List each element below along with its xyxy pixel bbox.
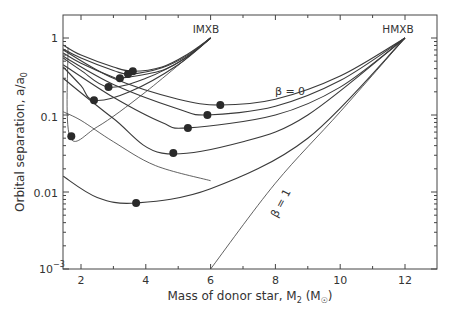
y-tick-1e-3: 10 <box>39 263 53 276</box>
y-tick-0.01: 0.01 <box>34 187 59 200</box>
curves <box>63 38 405 269</box>
x-tick-2: 2 <box>78 274 85 287</box>
curve-hmxb-0-2 <box>63 38 405 115</box>
y-tick-0.1: 0.1 <box>41 111 59 124</box>
minimum-dot <box>216 101 224 109</box>
x-tick-4: 4 <box>142 274 149 287</box>
hmxb-label: HMXB <box>382 23 413 35</box>
x-tick-10: 10 <box>333 274 347 287</box>
curve-hmxb-0-4 <box>63 38 405 128</box>
x-axis-label: Mass of donor star, M2 (M☉) <box>167 289 332 305</box>
minimum-dot <box>124 70 132 78</box>
curve-hmxb-0 <box>63 38 405 105</box>
minimum-dot <box>90 96 98 104</box>
minimum-dots <box>67 67 224 207</box>
beta1-label: β = 1 <box>268 187 294 220</box>
minimum-dot <box>169 149 177 157</box>
y-tick-1e-3-base: 10 <box>39 263 53 276</box>
y-axis-label: Orbital separation, a/a0 <box>13 72 29 212</box>
curve-hmxb-0-8 <box>63 38 405 203</box>
minimum-dot <box>116 74 124 82</box>
x-tick-labels: 24681012 <box>78 274 413 287</box>
x-tick-12: 12 <box>398 274 412 287</box>
minimum-dot <box>184 124 192 132</box>
beta0-label: β = 0 <box>275 85 305 98</box>
curve-imxb-1-lower- <box>63 112 210 181</box>
minimum-dot <box>203 111 211 119</box>
y-tick-1e-3-exp: −3 <box>53 260 65 269</box>
minimum-dot <box>132 199 140 207</box>
minimum-dot <box>67 132 75 140</box>
x-tick-6: 6 <box>207 274 214 287</box>
imxb-label: IMXB <box>193 23 220 35</box>
curve-hmxb-1 <box>211 38 405 269</box>
y-tick-1: 1 <box>51 32 58 45</box>
orbital-separation-chart: 24681012 1 0.1 0.01 10 −3 Mass of donor … <box>0 0 454 315</box>
minimum-dot <box>105 83 113 91</box>
x-tick-8: 8 <box>272 274 279 287</box>
